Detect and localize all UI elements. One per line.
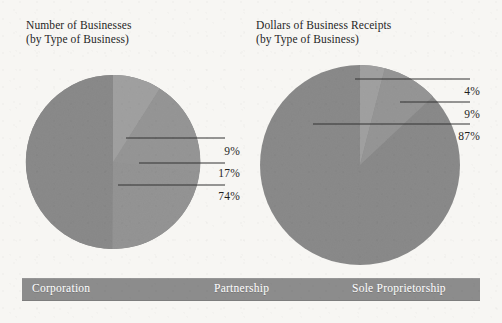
legend-item-corporation: Corporation — [32, 282, 90, 294]
figure-root: Number of Businesses (by Type of Busines… — [0, 0, 502, 323]
pie-label-corporation-right: 4% — [438, 85, 480, 97]
pie-label-sole-proprietorship-right: 87% — [438, 130, 480, 142]
legend-item-partnership: Partnership — [214, 282, 269, 294]
chart-title-left: Number of Businesses (by Type of Busines… — [26, 19, 216, 46]
pie-label-partnership-right: 9% — [438, 108, 480, 120]
pie-label-corporation-left: 9% — [198, 145, 240, 157]
pie-label-sole-proprietorship-left: 74% — [198, 190, 240, 202]
chart-title-right: Dollars of Business Receipts (by Type of… — [256, 19, 466, 46]
pie-label-partnership-left: 17% — [198, 167, 240, 179]
pie-chart-number-of-businesses — [20, 58, 250, 273]
pie-svg-left — [20, 58, 250, 273]
pie-slice-sole-proprietorship-left-wedge — [26, 75, 113, 249]
legend-item-sole-proprietorship: Sole Proprietorship — [352, 282, 446, 294]
legend-bar: Corporation Partnership Sole Proprietors… — [22, 278, 480, 301]
